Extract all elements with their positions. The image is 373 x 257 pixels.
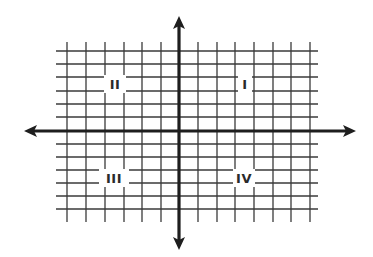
quadrant-label-iv: IV [236, 171, 252, 186]
coordinate-plane-svg: I II III IV [0, 0, 373, 257]
quadrant-label-iii: III [106, 171, 122, 186]
quadrant-label-i: I [242, 77, 247, 92]
coordinate-plane-diagram: I II III IV [0, 0, 373, 257]
quadrant-label-ii: II [110, 77, 121, 92]
